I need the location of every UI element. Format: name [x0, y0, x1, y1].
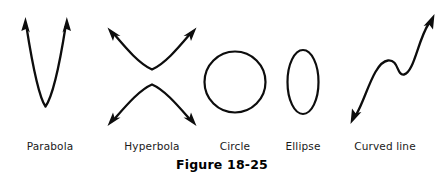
ellipse-shape [288, 50, 319, 114]
circle-shape [205, 52, 266, 113]
parabola-curve [27, 27, 66, 107]
parabola-left-arrowhead [21, 17, 30, 33]
hyperbola-lower-branch [114, 85, 191, 121]
ellipse-label-text: Ellipse [285, 140, 320, 152]
figure-drawing-canvas [0, 0, 444, 181]
parabola-right-arrowhead [63, 17, 72, 33]
parabola-shape [21, 17, 71, 107]
shape-label-ellipse: Ellipse [285, 140, 320, 153]
hyperbola-shape [108, 28, 197, 127]
curved-line-label-text: Curved line [354, 140, 416, 152]
curved-line-curve [357, 24, 429, 114]
shape-label-curved-line: Curved line [354, 140, 416, 153]
hyperbola-label-text: Hyperbola [124, 140, 179, 152]
figure-18-25: Parabola Hyperbola Circle Ellipse Curved… [0, 0, 444, 181]
shape-label-parabola: Parabola [27, 140, 74, 153]
shape-label-circle: Circle [220, 140, 250, 153]
parabola-label-text: Parabola [27, 140, 74, 152]
ellipse-outline [288, 50, 319, 114]
curved-line-shape [351, 14, 435, 124]
hyperbola-upper-branch [114, 34, 191, 70]
circle-outline [205, 52, 266, 113]
figure-caption: Figure 18-25 [176, 157, 268, 172]
shape-label-hyperbola: Hyperbola [124, 140, 179, 153]
circle-label-text: Circle [220, 140, 250, 152]
curved-line-lower-arrowhead [351, 109, 362, 125]
curved-line-upper-arrowhead [424, 14, 435, 30]
